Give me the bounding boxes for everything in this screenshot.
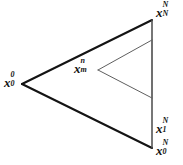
label-inner-apex-scripts: nm [81,60,88,73]
geometry-figure: x00 xNN xN1 xN0 xnm [0,0,183,165]
label-inner-apex: xnm [74,60,88,76]
label-inner-apex-sub: m [81,66,87,74]
label-bottom-right-vertex: xN0 [156,142,170,158]
inner-edge-lower [98,70,152,98]
label-bottom-right-upper-scripts: N1 [163,120,170,133]
label-bottom-right-upper-sup: N [163,117,169,125]
label-inner-apex-sup: n [81,57,85,65]
label-bottom-right-vertex-scripts: N0 [163,142,170,155]
label-top-right-vertex-sub: N [163,10,169,18]
label-top-right-vertex-sup: N [163,1,169,9]
outer-edge-lower [22,84,152,148]
inner-edge-upper [98,40,152,70]
label-left-vertex: x00 [4,74,18,90]
triangle-diagram-svg [0,0,183,165]
label-left-vertex-sub: 0 [11,80,15,88]
label-bottom-right-vertex-sub: 0 [163,148,167,156]
label-left-vertex-scripts: 00 [11,74,18,87]
label-top-right-vertex-scripts: NN [163,4,170,17]
label-bottom-right-upper: xN1 [156,120,170,136]
label-left-vertex-sup: 0 [11,71,15,79]
label-bottom-right-upper-sub: 1 [163,126,167,134]
label-bottom-right-vertex-sup: N [163,139,169,147]
label-top-right-vertex: xNN [156,4,170,20]
